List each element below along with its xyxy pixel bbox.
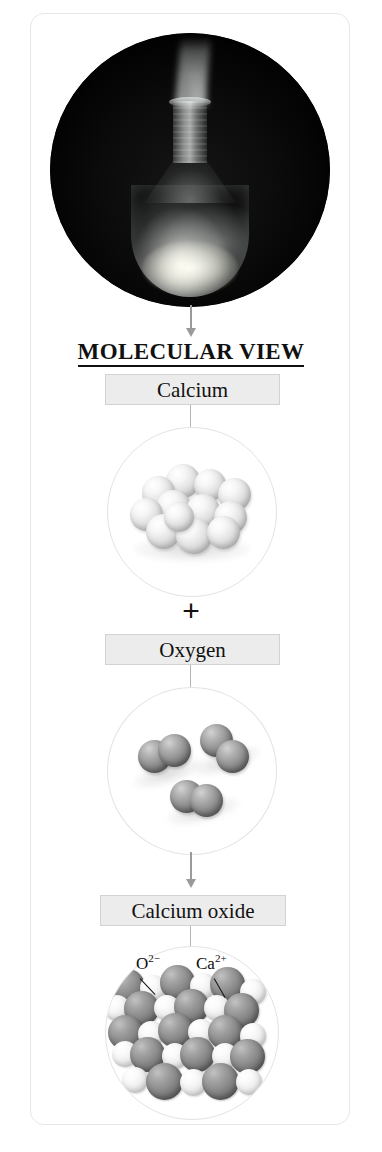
ion-symbol-oxide: O [136, 954, 148, 973]
ion-charge-calcium: 2+ [215, 952, 227, 964]
connector-oxygen [190, 665, 191, 687]
connector-calcium [190, 405, 191, 427]
molecule-circle-oxygen [107, 687, 277, 855]
molecule-circle-calcium-oxide [105, 946, 279, 1120]
plus-sign: + [0, 596, 382, 626]
oxygen-atom [216, 740, 249, 773]
arrow-shaft [190, 305, 191, 328]
oxide-ion [202, 1063, 239, 1100]
down-arrow-icon [184, 852, 198, 888]
down-arrow-icon [184, 305, 198, 337]
connector-calcium-oxide [190, 926, 191, 946]
label-calcium-oxide: Calcium oxide [100, 895, 286, 926]
calcium-ion [122, 1067, 148, 1093]
page-title: MOLECULAR VIEW [0, 339, 382, 365]
burning-calcium-glow [142, 241, 238, 295]
flask-photograph [50, 33, 330, 307]
oxide-ion [146, 1063, 183, 1100]
calcium-atom [164, 502, 194, 532]
arrow-head [186, 328, 196, 337]
arrow-shaft [190, 852, 191, 879]
oxygen-atom [190, 784, 223, 817]
molecule-circle-calcium [107, 427, 277, 597]
label-oxygen: Oxygen [105, 634, 280, 665]
flask-neck [173, 101, 207, 163]
ion-symbol-calcium: Ca [196, 954, 215, 973]
calcium-ion [236, 1069, 262, 1095]
oxygen-atom [158, 734, 191, 767]
label-calcium: Calcium [105, 374, 280, 405]
calcium-atom [207, 516, 240, 549]
molecular-view-label: MOLECULAR VIEW [78, 339, 305, 367]
ion-charge-oxide: 2− [148, 952, 160, 964]
arrow-head [186, 879, 196, 888]
ion-label-oxide: O2− [136, 952, 160, 974]
ion-label-calcium: Ca2+ [196, 952, 227, 974]
